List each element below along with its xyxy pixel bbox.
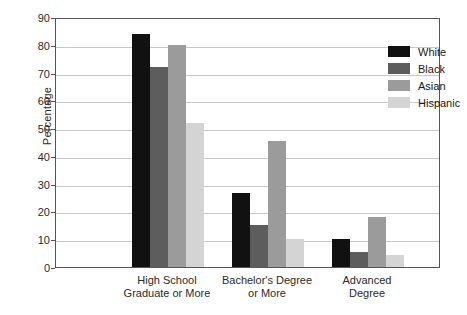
y-axis-tick-label: 0 [4,262,50,274]
y-axis-tick-label: 40 [4,151,50,163]
gridline [56,130,439,131]
gridline [56,47,439,48]
bar [268,141,286,267]
plot-area: WhiteBlackAsianHispanic [55,18,440,268]
y-axis-tick-labels: 0102030405060708090 [0,0,50,315]
bar [168,45,186,267]
y-axis-tick-label: 50 [4,123,50,135]
bar [368,217,386,267]
x-axis-category-label: Advanced Degree [297,274,437,300]
legend-item-label: White [418,46,446,58]
legend-item: Black [388,60,467,77]
gridline [56,102,439,103]
legend-item: Asian [388,77,467,94]
bar [186,123,204,267]
bar-chart: Percentage 0102030405060708090 WhiteBlac… [0,0,467,315]
y-axis-tick-label: 90 [4,12,50,24]
bar [232,193,250,267]
bar [332,239,350,267]
gridline [56,186,439,187]
legend-swatch-icon [388,46,410,57]
y-axis-tick-label: 10 [4,234,50,246]
y-axis-tick-label: 30 [4,179,50,191]
bar [386,255,404,268]
bar [132,34,150,267]
legend-item-label: Hispanic [418,97,460,109]
gridline [56,158,439,159]
legend-item: White [388,43,467,60]
chart-legend: WhiteBlackAsianHispanic [388,43,467,111]
y-axis-tick-label: 20 [4,206,50,218]
legend-swatch-icon [388,97,410,108]
bar [250,225,268,267]
legend-item-label: Asian [418,80,446,92]
legend-swatch-icon [388,80,410,91]
y-axis-tick-label: 60 [4,95,50,107]
y-axis-tick-mark [51,268,55,269]
y-axis-tick-label: 70 [4,68,50,80]
bar [150,67,168,267]
bar [350,252,368,267]
legend-swatch-icon [388,63,410,74]
y-axis-tick-label: 80 [4,40,50,52]
legend-item: Hispanic [388,94,467,111]
bar [286,239,304,267]
legend-item-label: Black [418,63,445,75]
gridline [56,75,439,76]
